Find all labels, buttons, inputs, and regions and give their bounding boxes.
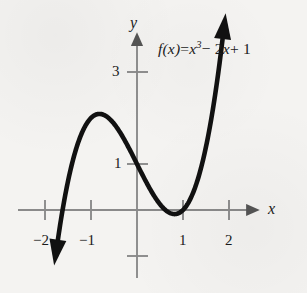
- x-tick-label-2: 2: [225, 233, 233, 248]
- equation-x-cubed: x3: [189, 40, 202, 57]
- y-axis-label: y: [130, 15, 137, 31]
- x-tick-label-1: 1: [179, 233, 187, 248]
- curve-arrow-up-right: [214, 13, 231, 40]
- coordinate-plot: [0, 0, 307, 293]
- function-equation-label: f(x)=x3− 2x+ 1: [158, 40, 251, 57]
- equation-minus-2: − 2: [202, 40, 223, 57]
- x-tick-label--2: −2: [33, 233, 49, 248]
- equation-x-term: x: [223, 40, 230, 57]
- graph-figure: y x 3 1 −2 −1 1 2 f(x)=x3− 2x+ 1: [0, 0, 307, 293]
- y-tick-label-1: 1: [114, 156, 122, 171]
- x-tick-label--1: −1: [79, 233, 95, 248]
- equation-plus-1: + 1: [230, 40, 251, 57]
- curve-arrow-down-left: [49, 239, 66, 266]
- equation-fx: f(x): [158, 40, 180, 57]
- equation-equals: =: [180, 40, 189, 57]
- y-tick-label-3: 3: [112, 64, 120, 79]
- x-axis-label: x: [268, 201, 275, 217]
